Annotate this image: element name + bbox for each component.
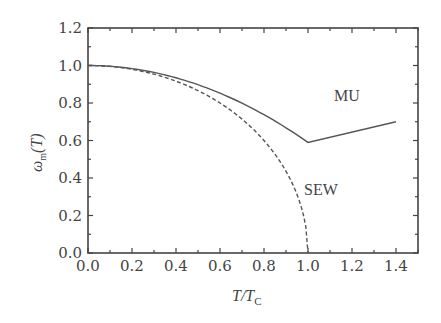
x-tick-label: 0.8 [252, 257, 276, 275]
x-tick-label: 1.0 [296, 257, 320, 275]
ticks [88, 28, 418, 253]
y-tick-label: 0.6 [58, 132, 82, 150]
x-tick-label: 0.6 [208, 257, 232, 275]
series-sew-line [88, 66, 308, 254]
y-tick-label: 1.2 [58, 19, 82, 37]
svg-text:T/TC: T/TC [232, 287, 262, 307]
y-tick-label: 0.0 [58, 244, 82, 262]
x-axis-title: T/TC [232, 287, 262, 307]
tick-labels: 0.00.20.40.60.81.01.21.40.00.20.40.60.81… [58, 19, 408, 275]
y-axis-title: ωm(T) [28, 133, 48, 172]
chart: 0.00.20.40.60.81.01.21.40.00.20.40.60.81… [0, 0, 441, 323]
y-axis-title-main: ω [28, 161, 45, 172]
x-tick-label: 1.4 [384, 257, 408, 275]
x-tick-label: 0.2 [120, 257, 144, 275]
y-tick-label: 0.8 [58, 94, 82, 112]
annotation-mu: MU [334, 87, 360, 104]
x-tick-label: 1.2 [340, 257, 364, 275]
y-tick-label: 0.2 [58, 207, 82, 225]
y-tick-label: 1.0 [58, 57, 82, 75]
y-tick-label: 0.4 [58, 169, 82, 187]
x-axis-title-sub: C [254, 295, 261, 307]
svg-text:ωm(T): ωm(T) [28, 133, 48, 172]
plot-frame [88, 28, 418, 253]
y-axis-title-arg: (T) [28, 133, 46, 153]
annotation-sew: SEW [304, 181, 339, 198]
x-axis-title-main: T/T [232, 287, 255, 304]
x-tick-label: 0.4 [164, 257, 188, 275]
